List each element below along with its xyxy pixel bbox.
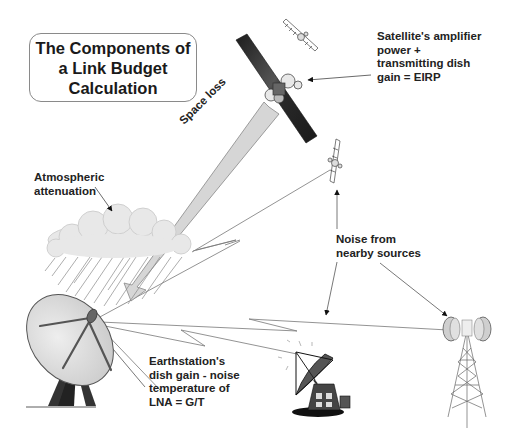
gt-label: Earthstation's dish gain - noise tempera… xyxy=(149,355,240,409)
gt-label-line: LNA = G/T xyxy=(149,396,240,410)
atmospheric-attenuation-label: Atmospheric attenuation xyxy=(34,171,104,198)
space-loss-beam xyxy=(124,102,279,301)
noise-label: Noise from nearby sources xyxy=(336,233,421,260)
cloud-icon xyxy=(47,204,191,258)
eirp-label-line: Satellite's amplifier xyxy=(377,30,481,44)
interfering-satellite-right-icon xyxy=(328,139,342,183)
title-line-2: a Link Budget xyxy=(58,58,167,78)
noise-label-line: nearby sources xyxy=(336,247,421,261)
ground-station-icon xyxy=(278,340,350,417)
atmospheric-label-line: Atmospheric xyxy=(34,171,104,185)
diagram-title: The Components of a Link Budget Calculat… xyxy=(29,33,197,102)
eirp-label-line: power + xyxy=(377,44,481,58)
gt-label-line: dish gain - noise xyxy=(149,369,240,383)
interfering-satellite-top-icon xyxy=(283,19,318,51)
atmospheric-label-line: attenuation xyxy=(34,185,104,199)
eirp-arrow xyxy=(308,75,371,80)
title-line-3: Calculation xyxy=(69,78,158,98)
eirp-label-line: transmitting dish xyxy=(377,57,481,71)
eirp-label: Satellite's amplifier power + transmitti… xyxy=(377,30,481,84)
gt-label-line: Earthstation's xyxy=(149,355,240,369)
noise-label-line: Noise from xyxy=(336,233,421,247)
eirp-label-line: gain = EIRP xyxy=(377,71,481,85)
radio-tower-icon xyxy=(443,317,491,428)
title-line-1: The Components of xyxy=(36,38,191,58)
earth-station-dish-icon xyxy=(9,277,131,407)
gt-label-line: temperature of xyxy=(149,382,240,396)
